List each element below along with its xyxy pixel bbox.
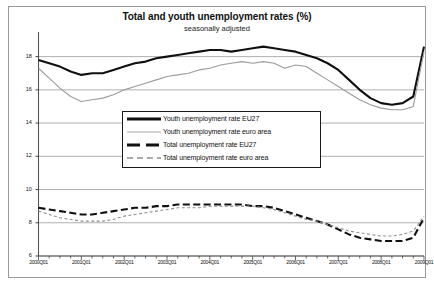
y-axis-tick-label: 8 [18,219,32,225]
x-axis-tick-label: 2002Q01 [102,259,146,265]
chart-legend: Youth unemployment rate EU27 Youth unemp… [122,111,321,168]
legend-item: Total unemployment rate EU27 [123,138,320,151]
x-axis-tick-label: 2008Q01 [359,259,403,265]
x-axis-tick-label: 2005Q01 [231,259,275,265]
legend-item: Youth unemployment rate EU27 [123,112,320,125]
y-axis-tick-label: 18 [18,53,32,59]
x-axis-tick-label: 2009Q01 [402,259,434,265]
series-line [39,206,425,236]
legend-label: Youth unemployment rate EU27 [163,115,259,122]
legend-label: Youth unemployment rate euro area [163,128,271,135]
y-axis-tick-label: 14 [18,119,32,125]
series-line [39,47,425,105]
chart-figure: Total and youth unemployment rates (%) s… [0,0,434,285]
x-axis-tick-label: 2000Q01 [17,259,61,265]
x-axis-tick-label: 2004Q01 [188,259,232,265]
x-axis-tick-label: 2001Q01 [59,259,103,265]
x-axis-tick-label: 2006Q01 [274,259,318,265]
series-line [39,52,425,110]
legend-item: Youth unemployment rate euro area [123,125,320,138]
legend-line-swatch-youth-euro-area [126,127,162,137]
x-axis-tick-label: 2003Q01 [145,259,189,265]
y-axis-tick-label: 12 [18,152,32,158]
legend-line-swatch-total-eu27 [126,140,162,150]
legend-label: Total unemployment rate euro area [163,154,268,161]
y-axis-tick-label: 16 [18,86,32,92]
legend-item: Total unemployment rate euro area [123,151,320,164]
legend-line-swatch-total-euro-area [126,153,162,163]
legend-label: Total unemployment rate EU27 [163,141,256,148]
legend-line-swatch-youth-eu27 [126,114,162,124]
y-axis-tick-label: 6 [18,252,32,258]
x-axis-tick-label: 2007Q01 [316,259,360,265]
y-axis-tick-label: 10 [18,186,32,192]
